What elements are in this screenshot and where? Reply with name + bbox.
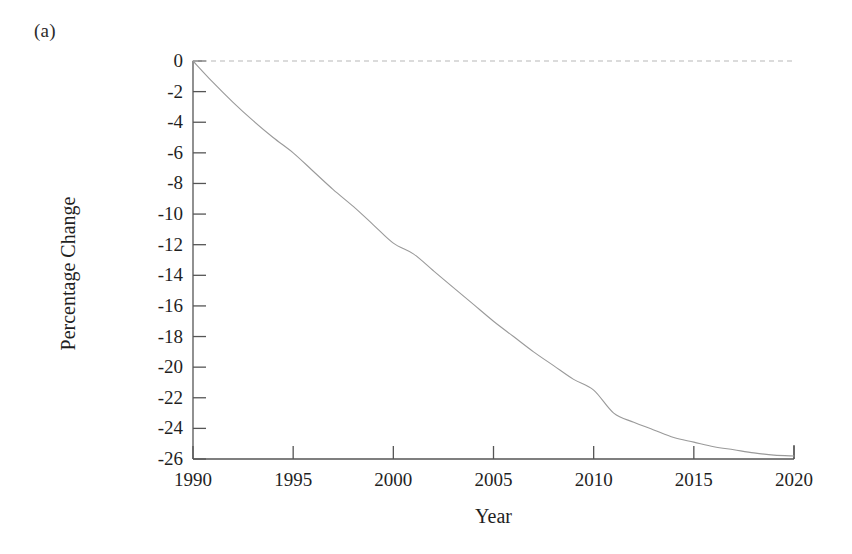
axis-tick-marks bbox=[193, 61, 794, 459]
figure-panel-a: (a) Percentage Change Year 0-2-4-6-8-10-… bbox=[0, 0, 852, 554]
data-series-line bbox=[193, 61, 794, 456]
axis-lines bbox=[193, 61, 794, 459]
chart-plot-area bbox=[0, 0, 852, 554]
